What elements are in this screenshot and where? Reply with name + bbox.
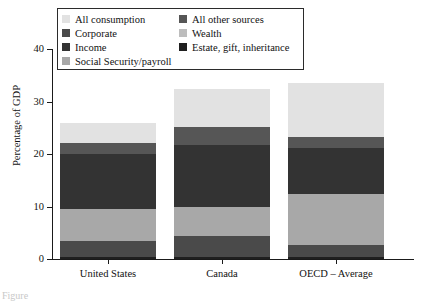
bar-segment: [60, 123, 156, 143]
bar-segment: [60, 209, 156, 242]
bar-segment: [174, 236, 270, 257]
legend-label: Estate, gift, inheritance: [192, 42, 289, 53]
bar-segment: [174, 127, 270, 145]
bar-segment: [174, 89, 270, 127]
legend-label: All consumption: [75, 14, 145, 25]
legend-swatch-icon: [179, 15, 187, 23]
legend-swatch-icon: [62, 43, 70, 51]
legend-item: Corporate: [62, 26, 172, 40]
x-tick-mark: [222, 259, 223, 264]
y-tick-label: 40: [0, 44, 44, 54]
x-axis-line: [52, 259, 414, 260]
legend-label: Income: [75, 42, 107, 53]
bar-segment: [288, 137, 384, 149]
plot-area: [52, 49, 414, 259]
x-tick-mark: [336, 259, 337, 264]
legend: All consumptionCorporateIncomeSocial Sec…: [57, 8, 304, 70]
legend-item: All consumption: [62, 12, 172, 26]
legend-swatch-icon: [179, 29, 187, 37]
legend-swatch-icon: [179, 43, 187, 51]
stacked-bar: [174, 89, 270, 259]
y-tick-label: 0: [0, 254, 44, 264]
x-tick-label: United States: [80, 268, 136, 279]
legend-swatch-icon: [62, 29, 70, 37]
bar-segment: [60, 241, 156, 257]
legend-column-left: All consumptionCorporateIncomeSocial Sec…: [62, 12, 172, 68]
bar-segment: [174, 145, 270, 207]
stacked-bar: [288, 83, 384, 259]
bar-segment: [288, 83, 384, 137]
bar-segment: [60, 143, 156, 154]
bar-segment: [288, 194, 384, 245]
x-tick-label: OECD – Average: [299, 268, 372, 279]
legend-label: Corporate: [75, 28, 117, 39]
legend-item: All other sources: [179, 12, 289, 26]
legend-item: Income: [62, 40, 172, 54]
figure-root: Percentage of GDP 010203040 United State…: [0, 0, 425, 301]
legend-swatch-icon: [62, 57, 70, 65]
x-tick-mark: [108, 259, 109, 264]
figure-caption: Figure: [2, 290, 28, 301]
legend-swatch-icon: [62, 15, 70, 23]
bar-segment: [288, 148, 384, 194]
bar-segment: [288, 245, 384, 257]
legend-item: Estate, gift, inheritance: [179, 40, 289, 54]
y-tick-label: 30: [0, 97, 44, 107]
legend-item: Social Security/payroll: [62, 54, 172, 68]
legend-label: All other sources: [192, 14, 264, 25]
legend-label: Social Security/payroll: [75, 56, 172, 67]
legend-item: Wealth: [179, 26, 289, 40]
y-axis-title: Percentage of GDP: [11, 36, 22, 216]
x-tick-label: Canada: [206, 268, 238, 279]
legend-label: Wealth: [192, 28, 221, 39]
stacked-bar: [60, 123, 156, 260]
bar-segment: [174, 207, 270, 237]
legend-column-right: All other sourcesWealthEstate, gift, inh…: [179, 12, 289, 54]
y-tick-mark: [47, 259, 52, 260]
bar-segment: [60, 154, 156, 209]
y-tick-label: 20: [0, 149, 44, 159]
y-tick-label: 10: [0, 202, 44, 212]
